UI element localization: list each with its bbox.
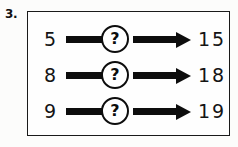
right-arrow-icon — [176, 104, 191, 120]
mapping-row: 9 ? 19 — [28, 94, 229, 128]
question-mark-icon: ? — [103, 63, 127, 87]
problem-box: 5 ? 15 8 ? 18 — [27, 11, 230, 136]
question-number-label: 3. — [5, 7, 17, 21]
right-arrow-icon — [176, 68, 191, 84]
unknown-operation-circle[interactable]: ? — [101, 61, 129, 89]
unknown-operation-circle[interactable]: ? — [101, 97, 129, 125]
input-value: 5 — [37, 22, 63, 56]
worksheet-page: 3. 5 ? 15 8 ? — [0, 0, 238, 147]
output-value: 18 — [196, 58, 230, 92]
arrow-shaft-right — [133, 108, 178, 115]
input-value: 9 — [37, 94, 63, 128]
arrow-shaft-right — [133, 36, 178, 43]
output-value: 15 — [196, 22, 230, 56]
mapping-rows-group: 5 ? 15 8 ? 18 — [28, 12, 229, 135]
input-value: 8 — [37, 58, 63, 92]
mapping-row: 8 ? 18 — [28, 58, 229, 92]
arrow-shaft-right — [133, 72, 178, 79]
question-mark-icon: ? — [103, 27, 127, 51]
unknown-operation-circle[interactable]: ? — [101, 25, 129, 53]
output-value: 19 — [196, 94, 230, 128]
question-mark-icon: ? — [103, 99, 127, 123]
right-arrow-icon — [176, 32, 191, 48]
mapping-row: 5 ? 15 — [28, 22, 229, 56]
